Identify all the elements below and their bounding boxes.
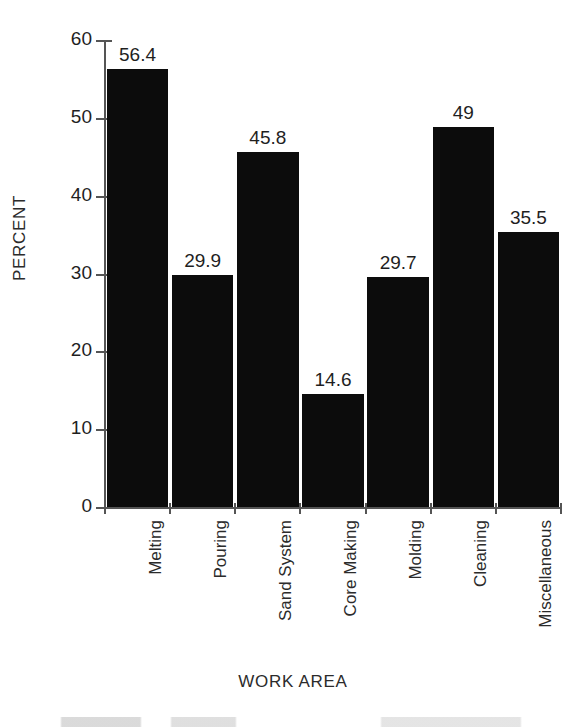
y-axis-tick-label: 10 [32, 417, 92, 439]
x-axis-category-label: Sand System [276, 520, 296, 690]
bar-group: 14.6 [302, 41, 364, 508]
x-axis-tick-mark [299, 503, 301, 514]
y-axis-tick-label: 20 [32, 339, 92, 361]
x-axis-category-label: Cleaning [471, 520, 491, 690]
x-axis-tick-mark [365, 503, 367, 514]
plot-area: 56.429.945.814.629.74935.5 [105, 41, 561, 508]
bar[interactable] [302, 394, 364, 508]
x-axis-category-label: Molding [406, 520, 426, 690]
x-axis-tick-mark [169, 503, 171, 514]
x-axis-tick-mark [560, 503, 562, 514]
bar-value-label: 45.8 [249, 127, 286, 149]
y-axis-tick-label: 0 [32, 495, 92, 517]
x-axis-tick-mark [495, 503, 497, 514]
bar-group: 49 [433, 41, 495, 508]
x-axis-category-label: Pouring [211, 520, 231, 690]
bar-group: 45.8 [237, 41, 299, 508]
y-axis-tick-label: 40 [32, 184, 92, 206]
bar-group: 35.5 [498, 41, 560, 508]
bar[interactable] [433, 127, 495, 508]
bar[interactable] [107, 69, 169, 508]
x-axis-line [104, 507, 562, 509]
bar-value-label: 49 [453, 102, 474, 124]
bar[interactable] [498, 232, 560, 508]
x-axis-tick-mark [234, 503, 236, 514]
bar-chart-figure: PERCENT 0102030405060 56.429.945.814.629… [0, 0, 586, 727]
y-axis-tick-label: 60 [32, 28, 92, 50]
bar-group: 29.7 [367, 41, 429, 508]
bar-group: 29.9 [172, 41, 234, 508]
bar[interactable] [367, 277, 429, 508]
bar-group: 56.4 [107, 41, 169, 508]
bar-value-label: 56.4 [119, 44, 156, 66]
bar[interactable] [237, 152, 299, 508]
bar[interactable] [172, 275, 234, 508]
x-axis-category-label: Core Making [341, 520, 361, 690]
bar-value-label: 29.7 [380, 252, 417, 274]
bar-value-label: 29.9 [184, 250, 221, 272]
scan-edge-artifact [0, 717, 586, 727]
x-axis-title: WORK AREA [0, 672, 586, 692]
x-axis-tick-mark [430, 503, 432, 514]
y-axis-tick-label: 30 [32, 262, 92, 284]
x-axis-tick-mark [104, 503, 106, 514]
bar-value-label: 35.5 [510, 207, 547, 229]
y-axis-title: PERCENT [10, 158, 30, 318]
y-axis-tick-label: 50 [32, 106, 92, 128]
bar-value-label: 14.6 [314, 369, 351, 391]
x-axis-category-label: Melting [146, 520, 166, 690]
x-axis-category-label: Miscellaneous [536, 520, 556, 690]
